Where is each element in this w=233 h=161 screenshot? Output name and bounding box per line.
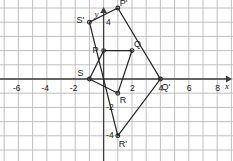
x-tick-neg4: -4: [41, 84, 49, 93]
point-label-Q: Q: [134, 40, 141, 49]
y-tick-neg2: -2: [106, 103, 114, 112]
point-label-Pprime: P': [120, 0, 128, 8]
point-label-Rprime: R': [119, 140, 127, 149]
x-tick-8: 8: [215, 84, 220, 93]
y-tick-neg4: -4: [106, 131, 114, 140]
plotted-polygons: [89, 8, 160, 136]
point-label-Sprime: S': [76, 16, 84, 25]
x-tick-neg6: -6: [13, 84, 21, 93]
preimage-PQRS: [89, 51, 132, 94]
point-label-R: R: [120, 96, 127, 105]
x-tick-2: 2: [130, 84, 135, 93]
point-label-P: P: [93, 46, 99, 55]
y-tick-neg6: -6: [106, 160, 114, 161]
point-label-S: S: [77, 69, 83, 78]
graph-canvas: [0, 0, 233, 161]
y-tick-4: 4: [106, 18, 111, 27]
coordinate-grid-figure: -8-6-4-22468104-2-4-6PQRSP'Q'R'S' y x: [0, 0, 233, 161]
x-tick-6: 6: [187, 84, 192, 93]
point-label-Qprime: Q': [161, 83, 170, 92]
x-axis-label: x: [225, 82, 229, 91]
x-tick-neg2: -2: [70, 84, 78, 93]
axes: [0, 7, 232, 161]
y-axis-label: y: [95, 10, 99, 19]
